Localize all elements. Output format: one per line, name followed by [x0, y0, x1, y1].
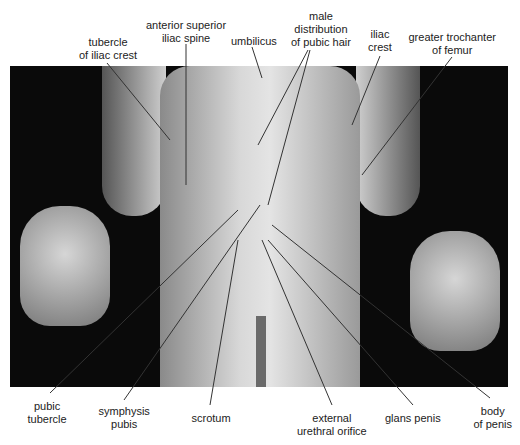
label-bottom-4: glans penis — [385, 412, 441, 425]
label-top-5: greater trochanterof femur — [409, 31, 496, 57]
label-line: crest — [368, 41, 392, 54]
label-bottom-5: bodyof penis — [474, 405, 513, 431]
label-line: urethral orifice — [297, 425, 367, 438]
label-line: umbilicus — [231, 35, 277, 48]
label-line: scrotum — [192, 412, 231, 425]
leader-line — [124, 205, 260, 400]
label-line: of penis — [474, 418, 513, 431]
leader-line — [268, 240, 413, 405]
leader-line — [362, 57, 452, 175]
label-line: pubis — [99, 418, 150, 431]
label-top-3: maledistributionof pubic hair — [291, 10, 351, 49]
label-line: greater trochanter — [409, 31, 496, 44]
label-line: body — [474, 405, 513, 418]
label-top-0: tubercleof iliac crest — [79, 36, 137, 62]
label-bottom-0: pubictubercle — [28, 400, 67, 426]
label-line: iliac spine — [146, 32, 226, 45]
label-bottom-1: symphysispubis — [99, 405, 150, 431]
label-bottom-3: externalurethral orifice — [297, 412, 367, 438]
label-top-1: anterior superioriliac spine — [146, 19, 226, 45]
label-line: of pubic hair — [291, 36, 351, 49]
label-line: distribution — [291, 23, 351, 36]
label-line: of iliac crest — [79, 49, 137, 62]
leader-line — [210, 240, 238, 405]
label-line: of femur — [409, 44, 496, 57]
leader-line — [268, 50, 310, 205]
label-line: anterior superior — [146, 19, 226, 32]
label-top-2: umbilicus — [231, 35, 277, 48]
label-line: male — [291, 10, 351, 23]
leader-line — [258, 50, 308, 145]
label-top-4: iliaccrest — [368, 28, 392, 54]
leader-line — [50, 210, 238, 393]
label-line: tubercle — [79, 36, 137, 49]
label-line: external — [297, 412, 367, 425]
leader-line — [252, 47, 262, 78]
leader-line — [352, 56, 380, 125]
label-line: tubercle — [28, 413, 67, 426]
leader-line — [272, 225, 490, 398]
label-line: glans penis — [385, 412, 441, 425]
leader-line — [107, 63, 170, 140]
leader-lines — [0, 0, 520, 445]
label-line: pubic — [28, 400, 67, 413]
anatomy-figure: tubercleof iliac crestanterior superiori… — [0, 0, 520, 445]
label-line: iliac — [368, 28, 392, 41]
label-bottom-2: scrotum — [192, 412, 231, 425]
label-line: symphysis — [99, 405, 150, 418]
